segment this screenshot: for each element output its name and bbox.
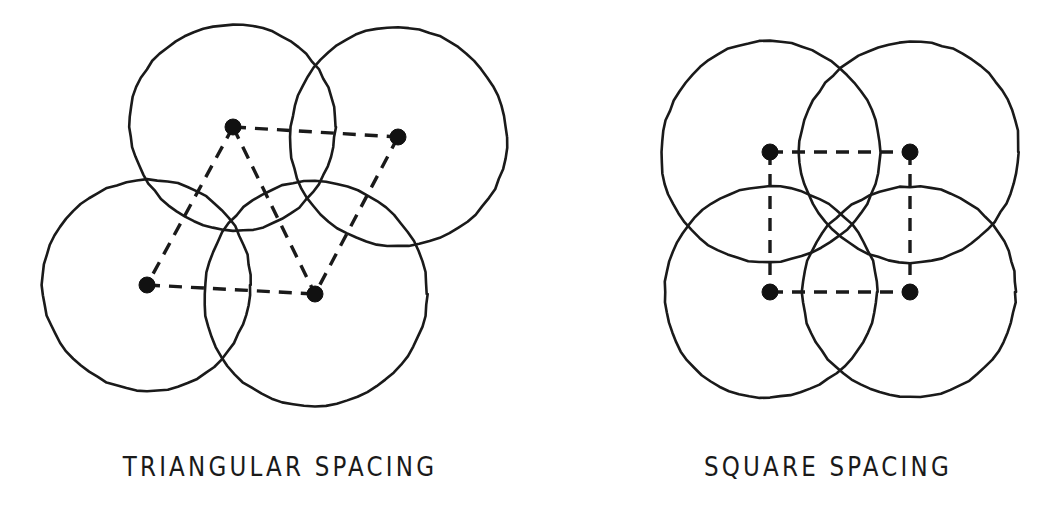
caption-triangular-spacing: TRIANGULAR SPACING: [0, 452, 560, 481]
center-dot-bottom-right: [307, 286, 323, 302]
panel-square-spacing: SQUARE SPACING: [560, 0, 1059, 524]
panel-triangular-spacing: TRIANGULAR SPACING: [0, 0, 560, 524]
center-dot-bottom-left: [762, 284, 778, 300]
center-dot-top-left: [762, 144, 778, 160]
connector-group: [147, 127, 398, 294]
sprinkler-spacing-figure: TRIANGULAR SPACING SQUARE SPACING: [0, 0, 1059, 524]
connector-mid-diagonal: [233, 127, 315, 294]
center-dot-bottom-right: [902, 284, 918, 300]
connector-left-diagonal: [147, 127, 233, 285]
circle-group: [42, 25, 508, 407]
center-dot-bottom-left: [139, 277, 155, 293]
connector-top: [233, 127, 398, 137]
center-dot-top-right: [390, 129, 406, 145]
center-dot-group: [762, 144, 918, 300]
connector-bottom: [147, 285, 315, 294]
connector-right-diagonal: [315, 137, 398, 294]
circle-group: [662, 41, 1019, 398]
caption-square-spacing: SQUARE SPACING: [579, 452, 1059, 481]
square-spacing-diagram: [560, 0, 1059, 450]
triangular-spacing-diagram: [0, 0, 560, 450]
center-dot-top-right: [902, 144, 918, 160]
connector-group: [770, 152, 910, 292]
center-dot-top-left: [225, 119, 241, 135]
